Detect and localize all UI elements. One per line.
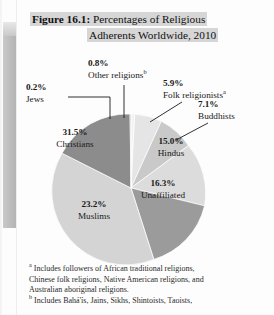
pie-label-unaffiliated-value: 16.3% (126, 178, 200, 190)
pie-label-buddhists-value: 7.1% (198, 99, 235, 111)
pie-label-folk-religionists: 5.9% Folk religionistsa (163, 78, 226, 101)
pie-label-folk-religionists-value: 5.9% (163, 78, 226, 90)
footnote-marker-b: b (143, 67, 146, 74)
pie-label-christians: 31.5% Christians (38, 127, 112, 150)
footnote-marker: a (29, 261, 32, 268)
pie-label-hindus-value: 15.0% (139, 136, 203, 148)
margin-tab-highlight (3, 22, 16, 36)
pie-label-hindus: 15.0% Hindus (139, 136, 203, 159)
pie-label-unaffiliated-name: Unaffiliated (126, 190, 200, 202)
figure-footnotes: a Includes followers of African traditio… (29, 264, 267, 306)
pie-label-jews-value: 0.2% (26, 82, 46, 94)
figure-title-line-1: Figure 16.1: Percentages of Religious (30, 11, 252, 27)
footnote-line: Chinese folk religions, Native American … (29, 275, 267, 286)
pie-label-other-religions-value: 0.8% (88, 58, 147, 70)
footnote-line: Australian aboriginal religions. (29, 285, 267, 296)
pie-chart: 0.2% Jews 0.8% Other religionsb 5.9% Fol… (0, 55, 274, 267)
figure-title-text-2: Adherents Worldwide, 2010 (87, 28, 218, 42)
pie-label-christians-name: Christians (38, 139, 112, 151)
footnote-text: Australian aboriginal religions. (29, 285, 129, 294)
footnote-text: Chinese folk religions, Native American … (29, 275, 204, 284)
pie-label-buddhists-name: Buddhists (198, 111, 235, 123)
footnote-text: Includes Bahá'ís, Jains, Sikhs, Shintois… (34, 296, 192, 305)
pie-label-hindus-name: Hindus (139, 148, 203, 160)
pie-label-buddhists: 7.1% Buddhists (198, 99, 235, 122)
pie-label-muslims-name: Muslims (60, 211, 128, 223)
footnote-marker-a: a (223, 87, 226, 94)
figure-title: Figure 16.1: Percentages of Religious Ad… (30, 11, 252, 43)
pie-label-other-religions-name: Other religionsb (88, 70, 147, 82)
figure-title-text-1: Percentages of Religious (93, 13, 205, 25)
pie-label-unaffiliated: 16.3% Unaffiliated (126, 178, 200, 201)
pie-label-jews: 0.2% Jews (26, 82, 46, 105)
figure-title-line-2: Adherents Worldwide, 2010 (30, 27, 252, 43)
pie-label-muslims-value: 23.2% (60, 199, 128, 211)
footnote-marker: b (29, 293, 32, 300)
pie-label-muslims: 23.2% Muslims (60, 199, 128, 222)
footnote-text: Includes followers of African traditiona… (34, 264, 195, 273)
footnote-line: a Includes followers of African traditio… (29, 264, 267, 275)
footnote-line: b Includes Bahá'ís, Jains, Sikhs, Shinto… (29, 296, 267, 307)
pie-label-other-religions: 0.8% Other religionsb (88, 58, 147, 81)
pie-label-christians-value: 31.5% (38, 127, 112, 139)
leader-line-folk-religionists (150, 102, 182, 122)
pie-label-jews-name: Jews (26, 94, 46, 106)
figure-page: Figure 16.1: Percentages of Religious Ad… (0, 0, 274, 315)
figure-number: Figure 16.1: (32, 13, 90, 25)
leader-line-jews (68, 97, 110, 119)
